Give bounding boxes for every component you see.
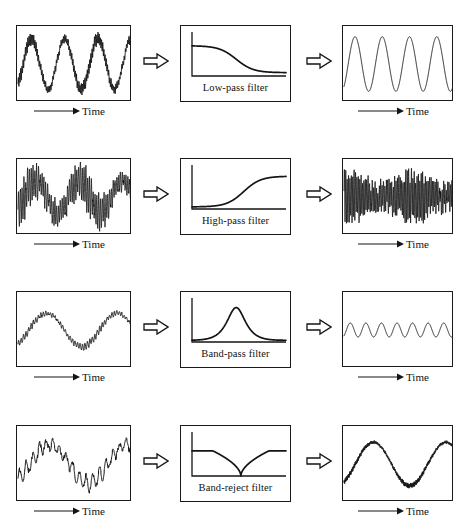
time-arrow-icon — [357, 238, 405, 250]
filter-row-band-pass: TimeBand-pass filterTime — [0, 286, 469, 418]
time-arrow-icon — [33, 371, 81, 383]
filter-label-band-reject: Band-reject filter — [180, 482, 291, 494]
filter-label-low-pass: Low-pass filter — [180, 82, 291, 94]
time-axis-label: Time — [82, 371, 105, 383]
time-axis-output-low-pass: Time — [357, 103, 457, 119]
input-signal-panel-band-pass — [16, 291, 131, 367]
time-arrow-icon — [33, 238, 81, 250]
output-signal-panel-band-reject — [342, 425, 453, 501]
time-axis-output-band-pass: Time — [357, 369, 457, 385]
input-signal-panel-band-reject — [16, 425, 131, 501]
double-right-arrow-icon — [143, 185, 169, 203]
time-arrow-icon — [357, 371, 405, 383]
output-signal-panel-low-pass — [342, 25, 453, 101]
double-right-arrow-icon — [306, 318, 332, 336]
time-arrow-icon — [357, 505, 405, 517]
time-axis-input-low-pass: Time — [33, 103, 133, 119]
filter-figure: TimeLow-pass filterTimeTimeHigh-pass fil… — [0, 0, 469, 532]
filter-row-low-pass: TimeLow-pass filterTime — [0, 20, 469, 152]
filter-label-band-pass: Band-pass filter — [180, 348, 291, 360]
double-right-arrow-icon — [143, 52, 169, 70]
time-axis-input-band-pass: Time — [33, 369, 133, 385]
time-axis-label: Time — [406, 371, 429, 383]
time-arrow-icon — [357, 105, 405, 117]
double-right-arrow-icon — [143, 318, 169, 336]
time-arrow-icon — [33, 505, 81, 517]
double-right-arrow-icon — [306, 185, 332, 203]
time-axis-label: Time — [406, 105, 429, 117]
time-axis-label: Time — [406, 238, 429, 250]
time-axis-label: Time — [82, 238, 105, 250]
time-axis-label: Time — [406, 505, 429, 517]
time-arrow-icon — [33, 105, 81, 117]
filter-row-high-pass: TimeHigh-pass filterTime — [0, 153, 469, 285]
double-right-arrow-icon — [306, 452, 332, 470]
double-right-arrow-icon — [143, 452, 169, 470]
time-axis-label: Time — [82, 105, 105, 117]
output-signal-panel-band-pass — [342, 291, 453, 367]
time-axis-label: Time — [82, 505, 105, 517]
time-axis-input-band-reject: Time — [33, 503, 133, 519]
time-axis-input-high-pass: Time — [33, 236, 133, 252]
double-right-arrow-icon — [306, 52, 332, 70]
filter-row-band-reject: TimeBand-reject filterTime — [0, 420, 469, 532]
input-signal-panel-high-pass — [16, 158, 131, 234]
time-axis-output-high-pass: Time — [357, 236, 457, 252]
output-signal-panel-high-pass — [342, 158, 453, 234]
input-signal-panel-low-pass — [16, 25, 131, 101]
filter-label-high-pass: High-pass filter — [180, 215, 291, 227]
time-axis-output-band-reject: Time — [357, 503, 457, 519]
